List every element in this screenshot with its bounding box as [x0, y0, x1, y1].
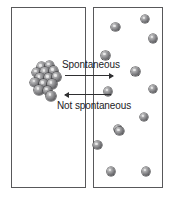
gas-particle [46, 91, 55, 100]
gas-particle [142, 167, 151, 176]
arrow-shaft [65, 94, 111, 95]
gas-particle [93, 141, 102, 150]
gas-particle [149, 34, 158, 43]
gas-particle [107, 167, 116, 176]
diagram-canvas: Spontaneous Not spontaneous [0, 0, 172, 200]
not-spontaneous-arrow [65, 94, 111, 95]
arrow-head-right-icon [109, 73, 114, 79]
arrow-shaft [65, 75, 113, 76]
spontaneous-label: Spontaneous [62, 59, 120, 70]
not-spontaneous-label: Not spontaneous [57, 100, 131, 111]
spontaneous-arrow [65, 75, 113, 76]
gas-particle [131, 67, 140, 76]
arrow-head-left-icon [64, 92, 69, 98]
gas-particle [111, 23, 120, 32]
gas-particle [115, 127, 124, 136]
